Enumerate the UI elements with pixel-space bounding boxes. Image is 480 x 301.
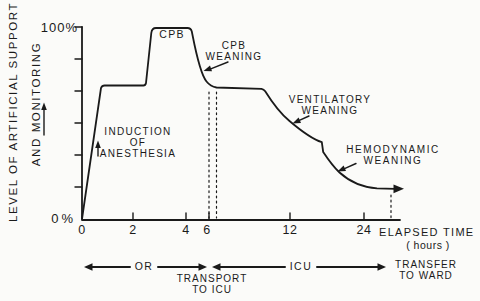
cpb-weaning-arrowhead (204, 65, 213, 71)
y-max-label: 100% (36, 20, 78, 35)
y-axis-title-line2: AND MONITORING (30, 42, 42, 166)
hemodynamic-weaning-label: HEMODYNAMIC WEANING (346, 144, 440, 166)
transfer-line2: TO WARD (395, 270, 457, 281)
induction-line1: INDUCTION (100, 126, 176, 137)
timeline-icu-label: ICU (290, 261, 313, 272)
cpb-label: CPB (159, 29, 185, 40)
induction-line3: ANESTHESIA (100, 148, 176, 159)
support-weaning-figure: LEVEL OF ARTIFICIAL SUPPORT AND MONITORI… (0, 0, 480, 301)
cpb-weaning-label: CPB WEANING (206, 40, 263, 62)
y-axis-label-arrowhead (41, 103, 47, 111)
hemodynamic-line1: HEMODYNAMIC (346, 144, 440, 155)
ventilatory-weaning-arrowhead (293, 118, 302, 124)
ventilatory-line2: WEANING (289, 105, 372, 116)
induction-label: INDUCTION OF ANESTHESIA (100, 126, 176, 159)
x-tick-0: 0 (78, 223, 85, 237)
y-min-label: 0% (34, 211, 76, 226)
transport-line2: TO ICU (177, 284, 248, 295)
icu-right-arrowhead (378, 263, 387, 271)
x-axis-title: ELAPSED TIME (379, 226, 474, 238)
timeline-or-label: OR (135, 261, 154, 272)
timeline-transport-label: TRANSPORT TO ICU (177, 273, 248, 295)
transport-line1: TRANSPORT (177, 273, 248, 284)
cpb-weaning-line1: CPB (206, 40, 263, 51)
y-axis-title-line1: LEVEL OF ARTIFICIAL SUPPORT (7, 2, 19, 222)
x-tick-12: 12 (283, 223, 298, 237)
x-tick-6: 6 (203, 223, 210, 237)
curve-end-arrowhead (394, 184, 405, 193)
timeline-transfer-label: TRANSFER TO WARD (395, 259, 457, 281)
transfer-line1: TRANSFER (395, 259, 457, 270)
or-left-arrowhead (84, 263, 93, 271)
cpb-weaning-line2: WEANING (206, 51, 263, 62)
ventilatory-weaning-arrow (299, 116, 309, 121)
icu-left-arrowhead (212, 263, 221, 271)
x-axis-ticks (133, 213, 364, 220)
y-axis-ticks (75, 27, 82, 187)
ventilatory-line1: VENTILATORY (289, 94, 372, 105)
or-right-arrowhead (199, 263, 208, 271)
x-tick-2: 2 (129, 223, 136, 237)
hemodynamic-line2: WEANING (346, 155, 440, 166)
ventilatory-weaning-label: VENTILATORY WEANING (289, 94, 372, 116)
x-tick-24: 24 (357, 223, 372, 237)
hemodynamic-weaning-arrowhead (338, 166, 347, 172)
cpb-weaning-arrow (210, 62, 229, 69)
transport-dotted-lines (209, 92, 217, 218)
induction-line2: OF (100, 137, 176, 148)
x-tick-4: 4 (182, 223, 189, 237)
x-axis-units: ( hours ) (406, 239, 450, 251)
